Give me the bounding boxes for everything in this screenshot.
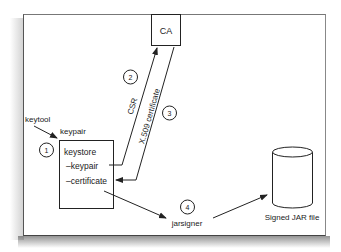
keypair-label: keypair — [60, 127, 86, 136]
ca-node: CA — [152, 15, 181, 46]
keytool-arrow — [34, 126, 57, 138]
keystore-signing-diagram: CA keytool keypair 1 keystore –keypair –… — [0, 0, 341, 252]
keystore-title: keystore — [64, 147, 96, 157]
jarsigner-label: jarsigner — [171, 219, 203, 228]
signed-jar-cylinder — [273, 147, 313, 208]
signed-jar-label: Signed JAR file — [265, 213, 320, 222]
x509-label: X.509 certificate — [137, 87, 162, 145]
ca-label: CA — [160, 26, 173, 36]
jarsigner-to-jar-arrow — [213, 195, 267, 218]
svg-text:4: 4 — [186, 204, 190, 211]
svg-text:3: 3 — [168, 110, 172, 117]
step-4-badge: 4 — [181, 200, 195, 214]
keytool-label: keytool — [25, 115, 51, 124]
svg-text:1: 1 — [45, 147, 49, 154]
step-2-badge: 2 — [124, 70, 138, 84]
keystore-item-keypair: –keypair — [66, 161, 98, 171]
step-3-badge: 3 — [163, 106, 177, 120]
keystore-node: keystore –keypair –certificate — [60, 141, 114, 209]
keystore-item-certificate: –certificate — [66, 176, 107, 186]
svg-text:2: 2 — [129, 74, 133, 81]
step-1-badge: 1 — [40, 143, 54, 157]
